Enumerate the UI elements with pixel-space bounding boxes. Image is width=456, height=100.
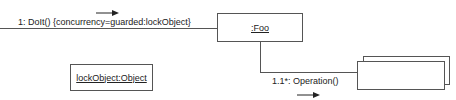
object-foo-label: :Foo bbox=[251, 23, 269, 33]
arrow-right-icon bbox=[96, 10, 120, 16]
object-foo[interactable]: :Foo bbox=[217, 13, 303, 42]
message-doit-label: 1: DoIt() {concurrency=guarded:lockObjec… bbox=[18, 17, 191, 27]
message-operation-label: 1.1*: Operation() bbox=[272, 76, 339, 86]
outgoing-link-horizontal bbox=[260, 72, 357, 73]
multi-object-front[interactable] bbox=[357, 61, 445, 90]
object-lock-label: lockObject:Object bbox=[76, 73, 147, 83]
incoming-link bbox=[0, 28, 217, 29]
object-lock[interactable]: lockObject:Object bbox=[70, 64, 153, 91]
arrow-right-icon bbox=[297, 92, 321, 98]
outgoing-link-vertical bbox=[260, 42, 261, 72]
